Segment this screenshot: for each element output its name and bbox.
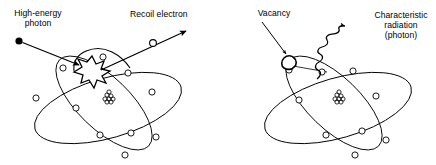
electron [122, 152, 128, 158]
label-recoil-electron: Recoil electron [130, 9, 210, 19]
electron [125, 70, 131, 76]
incident-photon-arrow [23, 43, 80, 66]
incident-photon-dot [15, 37, 22, 44]
left-nucleus [103, 90, 115, 104]
characteristic-photon-wave [315, 26, 345, 79]
recoil-electron [150, 40, 157, 47]
right-nucleus [333, 90, 345, 104]
left-atom-group [15, 31, 189, 165]
label-characteristic-radiation: Characteristic radiation (photon) [368, 10, 434, 41]
interaction-starburst [74, 56, 110, 88]
electron [323, 132, 329, 138]
electron [153, 134, 159, 140]
label-high-energy-photon: High-energy photon [4, 8, 72, 28]
recoil-electron-path [101, 31, 186, 70]
electron [350, 68, 356, 74]
electron [33, 95, 39, 101]
electron [128, 130, 134, 136]
left-orbit-outer [27, 58, 190, 158]
electron [373, 93, 379, 99]
vacancy-leader-line [262, 22, 286, 54]
electron [60, 65, 66, 71]
right-atom-group [257, 22, 420, 165]
electron [359, 128, 365, 134]
electron [296, 97, 302, 103]
label-vacancy: Vacancy [248, 8, 300, 18]
electron [100, 54, 106, 60]
vacancy-marker [282, 56, 297, 70]
electron [149, 89, 155, 95]
electron [383, 137, 389, 143]
atomic-interaction-figure: High-energy photon Recoil electron Vacan… [0, 0, 436, 165]
electron [73, 105, 79, 111]
electron [352, 152, 358, 158]
electron [97, 132, 103, 138]
right-electrons [286, 67, 389, 158]
right-orbit-outer [257, 58, 420, 158]
